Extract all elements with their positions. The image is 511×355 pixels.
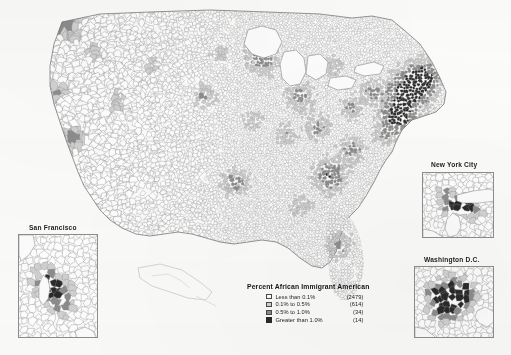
county-polygon xyxy=(303,267,308,270)
county-polygon xyxy=(388,266,391,270)
county-polygon xyxy=(330,65,333,68)
county-polygon xyxy=(429,9,433,12)
county-polygon xyxy=(390,185,394,188)
county-polygon xyxy=(219,245,223,249)
county-polygon xyxy=(256,145,258,148)
county-polygon xyxy=(390,240,392,243)
county-polygon xyxy=(430,154,433,157)
county-polygon xyxy=(75,235,84,238)
county-polygon xyxy=(316,16,319,19)
county-polygon xyxy=(379,226,382,231)
county-polygon xyxy=(314,159,318,162)
county-polygon xyxy=(366,10,369,13)
county-polygon xyxy=(363,243,366,245)
county-polygon xyxy=(399,149,403,153)
legend-class-count: (34) xyxy=(337,309,363,315)
county-polygon xyxy=(442,38,445,41)
county-polygon xyxy=(390,256,394,260)
county-polygon xyxy=(366,93,370,95)
county-polygon xyxy=(45,115,56,126)
county-polygon xyxy=(186,263,191,268)
county-polygon xyxy=(327,120,330,122)
county-polygon xyxy=(434,45,438,48)
county-polygon xyxy=(387,77,390,80)
county-polygon xyxy=(441,121,444,125)
county-polygon xyxy=(271,172,274,176)
county-polygon xyxy=(405,183,409,186)
county-polygon xyxy=(304,7,308,11)
county-polygon xyxy=(446,27,450,29)
county-polygon xyxy=(400,271,404,275)
county-polygon xyxy=(441,150,444,153)
county-polygon xyxy=(412,31,415,35)
county-polygon xyxy=(252,125,254,128)
county-polygon xyxy=(354,224,357,226)
county-polygon xyxy=(377,243,381,247)
county-polygon xyxy=(425,42,429,46)
county-polygon xyxy=(39,105,49,114)
county-polygon xyxy=(394,239,397,243)
county-polygon xyxy=(430,123,433,126)
county-polygon xyxy=(357,48,361,51)
county-polygon xyxy=(345,115,348,118)
county-polygon xyxy=(370,10,373,13)
county-polygon xyxy=(245,246,248,250)
county-polygon xyxy=(171,259,176,266)
county-polygon xyxy=(399,192,404,196)
county-polygon xyxy=(366,256,371,259)
county-polygon xyxy=(228,267,230,271)
county-polygon xyxy=(281,32,284,36)
county-polygon xyxy=(420,149,423,153)
county-polygon xyxy=(378,61,380,63)
county-polygon xyxy=(306,271,308,275)
county-polygon xyxy=(402,242,405,245)
county-polygon xyxy=(409,89,413,92)
county-polygon xyxy=(343,138,346,141)
county-polygon xyxy=(255,109,258,112)
county-polygon xyxy=(271,25,274,28)
county-polygon xyxy=(232,193,235,196)
county-polygon xyxy=(402,154,405,157)
county-polygon xyxy=(272,182,274,186)
county-polygon xyxy=(183,6,187,9)
county-polygon xyxy=(382,271,385,273)
county-polygon xyxy=(493,181,494,188)
county-polygon xyxy=(45,145,53,156)
county-polygon xyxy=(41,333,48,338)
county-polygon xyxy=(63,162,74,170)
county-polygon xyxy=(414,198,418,201)
county-polygon xyxy=(387,220,389,224)
county-polygon xyxy=(123,275,131,282)
county-polygon xyxy=(412,14,416,17)
county-polygon xyxy=(280,129,284,132)
county-polygon xyxy=(357,80,360,83)
county-polygon xyxy=(315,191,318,195)
county-polygon xyxy=(378,275,381,278)
county-polygon xyxy=(438,126,443,130)
county-polygon xyxy=(418,135,420,137)
county-polygon xyxy=(397,276,400,279)
county-polygon xyxy=(180,6,185,10)
county-polygon xyxy=(401,167,406,170)
county-polygon xyxy=(411,250,415,253)
county-polygon xyxy=(245,179,249,182)
county-polygon xyxy=(274,245,277,249)
county-polygon xyxy=(59,9,68,19)
county-polygon xyxy=(212,265,215,269)
county-polygon xyxy=(449,89,452,92)
county-polygon xyxy=(445,70,449,72)
county-polygon xyxy=(243,140,247,144)
county-polygon xyxy=(413,86,415,89)
county-polygon xyxy=(356,263,359,266)
county-polygon xyxy=(216,5,221,10)
county-polygon xyxy=(102,278,111,286)
county-polygon xyxy=(400,90,404,93)
county-polygon xyxy=(341,5,345,9)
county-polygon xyxy=(337,45,340,47)
legend-class-label: 0.5% to 1.0% xyxy=(275,309,337,315)
county-polygon xyxy=(433,128,437,132)
county-polygon xyxy=(412,188,416,191)
county-polygon xyxy=(385,214,388,217)
county-polygon xyxy=(406,150,409,153)
county-polygon xyxy=(397,167,400,170)
